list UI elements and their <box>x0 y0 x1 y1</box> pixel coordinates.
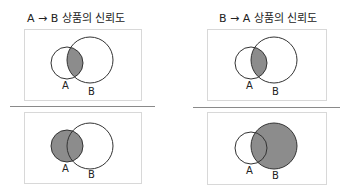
label-a: A <box>62 163 69 174</box>
venn-left-bottom: A B <box>51 123 113 180</box>
label-a: A <box>246 165 253 176</box>
label-a: A <box>246 80 253 91</box>
label-b: B <box>272 86 279 97</box>
label-a: A <box>62 80 69 91</box>
venn-right-top: A B <box>235 37 297 97</box>
label-b: B <box>88 169 95 180</box>
label-b: B <box>272 170 279 181</box>
label-b: B <box>88 86 95 97</box>
venn-right-bottom: A B <box>235 123 297 181</box>
venn-diagrams: A B A B A B A B <box>0 0 348 195</box>
venn-left-top: A B <box>51 37 113 97</box>
